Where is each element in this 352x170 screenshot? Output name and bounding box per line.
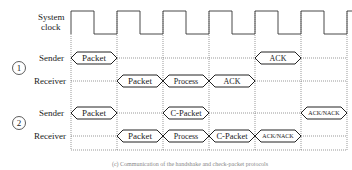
scenario-1-number: 1: [17, 63, 22, 73]
system-clock-label: System: [38, 12, 65, 22]
s2-sender-cpacket-label: C-Packet: [170, 108, 202, 118]
s1-receiver-ack-label: ACK: [224, 77, 241, 86]
s1-sender-packet-label: Packet: [82, 53, 106, 63]
sender-label-2: Sender: [39, 108, 64, 118]
s1-receiver-process-label: Process: [174, 77, 198, 86]
s2-receiver-cpacket-label: C-Packet: [216, 131, 248, 141]
system-clock-waveform: [71, 11, 352, 34]
s2-receiver-packet-label: Packet: [128, 131, 152, 141]
sender-label-1: Sender: [39, 53, 64, 63]
receiver-label-1: Receiver: [34, 76, 66, 86]
receiver-label-2: Receiver: [34, 131, 66, 141]
s2-sender-packet-label: Packet: [82, 108, 106, 118]
timing-diagram: System clock 1 Sender Receiver 2 Sender …: [0, 0, 352, 170]
s2-receiver-acknack-label: ACK/NACK: [262, 133, 294, 139]
scenario-2-number: 2: [17, 118, 22, 128]
s1-receiver-packet-label: Packet: [128, 76, 152, 86]
s2-sender-acknack-label: ACK/NACK: [308, 110, 340, 116]
s1-sender-ack-label: ACK: [270, 54, 287, 63]
figure-caption: (c) Communication of the handshake and c…: [112, 161, 269, 168]
s2-receiver-process-label: Process: [174, 132, 198, 141]
system-clock-label-2: clock: [41, 22, 61, 32]
